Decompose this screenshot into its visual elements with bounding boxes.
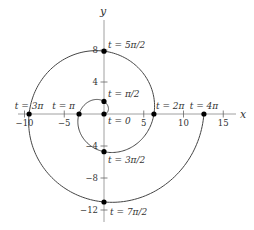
x-axis-label: x — [240, 108, 247, 121]
spiral-chart: −10−55101584−4−8−12 t = 0t = π/2t = πt =… — [0, 0, 254, 230]
y-tick-label: −12 — [80, 205, 98, 215]
point-label: t = π/2 — [108, 89, 140, 99]
point-label: t = 0 — [108, 116, 131, 126]
y-tick-label: −4 — [85, 141, 98, 151]
point-marker — [201, 111, 206, 116]
point-marker — [101, 199, 106, 204]
x-tick-label: 5 — [141, 118, 146, 128]
point-label: t = 3π/2 — [108, 155, 146, 165]
point-marker — [76, 111, 81, 116]
y-tick-label: 4 — [93, 77, 98, 87]
labeled-points: t = 0t = π/2t = πt = 3π/2t = 2πt = 5π/2t… — [15, 40, 219, 217]
point-label: t = 2π — [156, 101, 186, 111]
point-marker — [27, 111, 32, 116]
x-tick-label: 15 — [218, 118, 229, 128]
tick-marks: −10−55101584−4−8−12 — [16, 45, 229, 215]
point-label: t = π — [52, 101, 76, 111]
point-marker — [101, 49, 106, 54]
point-label: t = 5π/2 — [108, 40, 146, 50]
point-label: t = 4π — [190, 101, 220, 111]
y-tick-label: −8 — [85, 173, 98, 183]
point-marker — [101, 111, 106, 116]
x-tick-label: −5 — [58, 118, 71, 128]
point-marker — [151, 111, 156, 116]
point-label: t = 7π/2 — [110, 207, 148, 217]
x-tick-label: 10 — [178, 118, 189, 128]
point-marker — [101, 149, 106, 154]
y-axis-label: y — [99, 5, 107, 18]
y-tick-label: 8 — [93, 45, 98, 55]
point-marker — [101, 99, 106, 104]
point-label: t = 3π — [15, 101, 45, 111]
x-tick-label: −10 — [16, 118, 34, 128]
